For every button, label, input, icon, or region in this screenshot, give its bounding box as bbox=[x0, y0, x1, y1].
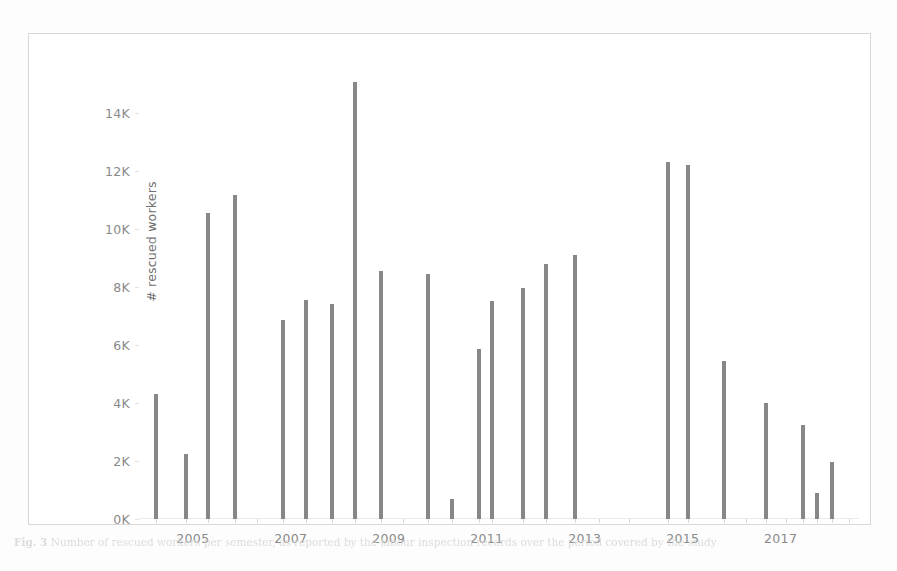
x-tick-mark bbox=[668, 519, 669, 523]
bar bbox=[686, 165, 690, 519]
y-tick-label: 8K bbox=[113, 279, 130, 294]
bar bbox=[379, 271, 383, 519]
figure-root: # rescued workers 0K2K4K6K8K10K12K14K 20… bbox=[0, 0, 897, 571]
y-tick-mark bbox=[135, 461, 139, 462]
y-tick-label: 12K bbox=[105, 163, 130, 178]
x-tick-mark bbox=[766, 519, 767, 523]
bar bbox=[450, 499, 454, 519]
x-tick-mark bbox=[546, 519, 547, 523]
x-tick-mark bbox=[283, 519, 284, 523]
bar bbox=[206, 213, 210, 519]
bar bbox=[801, 425, 805, 519]
x-tick-mark bbox=[832, 519, 833, 523]
x-tick-mark bbox=[817, 519, 818, 523]
bar bbox=[490, 301, 494, 519]
x-tick-mark bbox=[452, 519, 453, 523]
x-tick-mark bbox=[575, 519, 576, 523]
x-tick-mark bbox=[849, 519, 850, 523]
bar bbox=[304, 300, 308, 519]
bar bbox=[330, 304, 334, 519]
bar bbox=[830, 462, 834, 519]
y-tick-label: 10K bbox=[105, 221, 130, 236]
x-tick-mark bbox=[235, 519, 236, 523]
x-tick-mark bbox=[746, 519, 747, 523]
bar bbox=[521, 288, 525, 519]
x-tick-mark bbox=[786, 519, 787, 523]
y-tick-label: 0K bbox=[113, 512, 130, 527]
x-tick-mark bbox=[403, 519, 404, 523]
x-tick-mark bbox=[629, 519, 630, 523]
x-tick-mark bbox=[306, 519, 307, 523]
y-tick-mark bbox=[135, 403, 139, 404]
bar bbox=[426, 274, 430, 519]
bar bbox=[233, 195, 237, 519]
chart-frame: # rescued workers 0K2K4K6K8K10K12K14K 20… bbox=[28, 33, 871, 525]
bar bbox=[544, 264, 548, 519]
bar bbox=[154, 394, 158, 519]
y-tick-label: 2K bbox=[113, 453, 130, 468]
bar bbox=[722, 361, 726, 519]
y-tick-label: 14K bbox=[105, 105, 130, 120]
y-tick-mark bbox=[135, 229, 139, 230]
y-tick-label: 6K bbox=[113, 337, 130, 352]
x-tick-mark bbox=[492, 519, 493, 523]
x-tick-mark bbox=[208, 519, 209, 523]
bar bbox=[184, 454, 188, 519]
bar bbox=[573, 255, 577, 519]
y-tick-mark bbox=[135, 519, 139, 520]
x-tick-mark bbox=[803, 519, 804, 523]
bar bbox=[353, 82, 357, 519]
bar bbox=[815, 493, 819, 519]
plot-area: 0K2K4K6K8K10K12K14K 20052007200920112013… bbox=[139, 69, 859, 519]
figure-caption-label: Fig. 3 bbox=[14, 536, 47, 548]
x-tick-mark bbox=[381, 519, 382, 523]
x-tick-mark bbox=[523, 519, 524, 523]
x-tick-mark bbox=[257, 519, 258, 523]
y-tick-mark bbox=[135, 287, 139, 288]
x-tick-mark bbox=[688, 519, 689, 523]
x-tick-mark bbox=[332, 519, 333, 523]
x-tick-mark bbox=[355, 519, 356, 523]
bar bbox=[764, 403, 768, 519]
x-axis-baseline bbox=[139, 518, 859, 519]
figure-caption: Fig. 3 Number of rescued workers per sem… bbox=[14, 536, 884, 549]
bar bbox=[281, 320, 285, 519]
x-tick-mark bbox=[156, 519, 157, 523]
bar bbox=[666, 162, 670, 519]
y-tick-mark bbox=[135, 171, 139, 172]
x-tick-mark bbox=[186, 519, 187, 523]
y-tick-mark bbox=[135, 113, 139, 114]
figure-caption-text: Number of rescued workers per semester, … bbox=[51, 536, 717, 548]
bar bbox=[477, 349, 481, 519]
y-tick-label: 4K bbox=[113, 395, 130, 410]
x-tick-mark bbox=[479, 519, 480, 523]
y-tick-mark bbox=[135, 345, 139, 346]
x-tick-mark bbox=[428, 519, 429, 523]
x-tick-mark bbox=[599, 519, 600, 523]
x-tick-mark bbox=[724, 519, 725, 523]
